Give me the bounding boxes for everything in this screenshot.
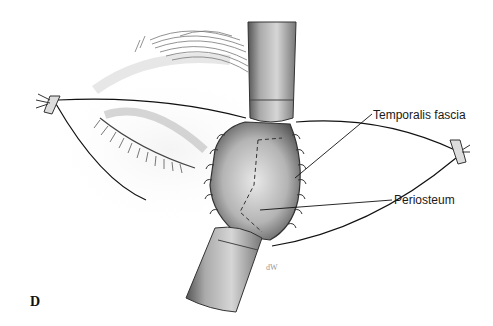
label-periosteum: Periosteum: [394, 193, 455, 207]
surgical-illustration: dW: [0, 0, 493, 326]
temporalis-fascia-leader-line: [295, 114, 372, 178]
left-suture-knot: [36, 94, 60, 114]
panel-letter: D: [30, 294, 40, 310]
top-retractor: [248, 22, 296, 122]
artist-signature: dW: [266, 263, 278, 272]
label-temporalis-fascia: Temporalis fascia: [373, 108, 466, 122]
bottom-retractor: [186, 227, 262, 312]
